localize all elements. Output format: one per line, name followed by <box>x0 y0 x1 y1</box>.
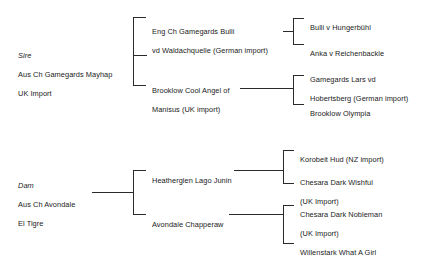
sire-child-1-gen3-bracket <box>293 18 294 45</box>
sire-grandchild-4-line-1: Brooklow Olympia <box>310 109 370 119</box>
pedigree-chart: Sire Aus Ch Gamegards Mayhap UK Import E… <box>0 0 436 264</box>
sire-grandchild-3-line-1: Gamegards Lars vd <box>310 75 408 85</box>
sire-grandchild-2-node: Anka v Reichenbackle <box>310 39 384 68</box>
sire-child-2-line-2: Manisus (UK import) <box>152 105 230 115</box>
sire-child-1-line-2: vd Waldachquelle (German import) <box>152 46 268 56</box>
sire-child1-connector <box>133 17 146 18</box>
dam-gc-1-connector <box>283 150 294 151</box>
sire-name-line-2: UK Import <box>18 89 112 99</box>
sire-grandchild-1-node: Bulli v Hungerbühl <box>310 13 371 42</box>
dam-grandchild-2-line-1: Chesara Dark Wishful <box>300 178 373 188</box>
sire-gc-1-connector <box>293 18 304 19</box>
sire-gc-4-connector <box>293 104 304 105</box>
sire-child2-connector <box>133 85 146 86</box>
sire-child-1-node: Eng Ch Gamegards Bulli vd Waldachquelle … <box>152 17 268 65</box>
dam-grandchild-4-line-1: Willenstark What A Girl <box>300 248 376 258</box>
dam-child-2-stem <box>229 214 283 215</box>
dam-child-2-node: Avondale Chapperaw <box>152 210 223 239</box>
sire-role-label: Sire <box>18 51 112 61</box>
sire-root-stem <box>133 55 147 56</box>
sire-gc-3-connector <box>293 75 304 76</box>
sire-gen2-bracket <box>133 17 134 86</box>
dam-gc-3-connector <box>283 205 294 206</box>
dam-grandchild-1-line-1: Korobeit Hud (NZ import) <box>300 155 384 165</box>
sire-grandchild-4-node: Brooklow Olympia <box>310 99 370 128</box>
sire-child-2-stem <box>240 88 293 89</box>
dam-gen2-bracket <box>133 170 134 215</box>
sire-child-2-gen3-bracket <box>293 75 294 105</box>
sire-grandchild-1-line-1: Bulli v Hungerbühl <box>310 23 371 33</box>
dam-grandchild-4-node: Willenstark What A Girl <box>300 238 376 264</box>
dam-child-1-node: Heatherglen Lago Junin <box>152 166 232 195</box>
sire-name-line-1: Aus Ch Gamegards Mayhap <box>18 70 112 80</box>
sire-child-2-node: Brooklow Cool Angel of Manisus (UK impor… <box>152 76 230 124</box>
sire-grandchild-2-line-1: Anka v Reichenbackle <box>310 49 384 59</box>
dam-grandchild-3-line-2: (UK Import) <box>300 229 382 239</box>
dam-root-stem <box>92 192 133 193</box>
dam-child2-connector <box>133 214 146 215</box>
dam-gc-4-connector <box>283 243 294 244</box>
dam-child-1-line-1: Heatherglen Lago Junin <box>152 176 232 186</box>
sire-root-node: Sire Aus Ch Gamegards Mayhap UK Import <box>18 41 112 108</box>
dam-child1-connector <box>133 170 146 171</box>
dam-child-2-line-1: Avondale Chapperaw <box>152 220 223 230</box>
dam-gc-2-connector <box>283 183 294 184</box>
sire-gc-2-connector <box>293 44 304 45</box>
dam-grandchild-3-line-1: Chesara Dark Nobleman <box>300 210 382 220</box>
sire-child-1-stem <box>283 31 293 32</box>
sire-child-2-line-1: Brooklow Cool Angel of <box>152 86 230 96</box>
dam-role-label: Dam <box>18 181 75 191</box>
dam-child-1-stem <box>234 170 283 171</box>
dam-name-line-2: El Tigre <box>18 219 75 229</box>
dam-child-1-gen3-bracket <box>283 150 284 184</box>
dam-root-node: Dam Aus Ch Avondale El Tigre <box>18 171 75 238</box>
dam-child-2-gen3-bracket <box>283 205 284 244</box>
dam-name-line-1: Aus Ch Avondale <box>18 200 75 210</box>
sire-child-1-line-1: Eng Ch Gamegards Bulli <box>152 27 268 37</box>
